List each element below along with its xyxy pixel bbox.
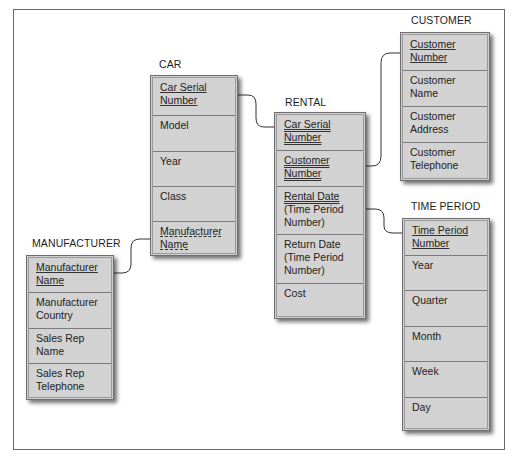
attribute-quarter[interactable]: Quarter: [405, 291, 487, 327]
attribute-customer-name[interactable]: Customer Name: [403, 71, 487, 107]
entity-car-body: Car Serial Number Model Year Class Manuf…: [152, 77, 236, 254]
connector-rental-timeperiod: [366, 209, 403, 233]
entity-title-car: CAR: [159, 58, 181, 70]
entity-customer-body: Customer Number Customer Name Customer A…: [402, 34, 488, 179]
attribute-week[interactable]: Week: [405, 362, 487, 398]
entity-rental-body: Car Serial Number Customer Number Rental…: [276, 114, 364, 317]
connector-customer-rental: [366, 53, 401, 166]
entity-title-time-period: TIME PERIOD: [411, 200, 480, 212]
attribute-customer-number[interactable]: Customer Number: [403, 35, 487, 71]
attribute-class[interactable]: Class: [153, 187, 235, 222]
attribute-car-serial-number[interactable]: Car Serial Number: [153, 78, 235, 116]
entity-title-customer: CUSTOMER: [411, 14, 472, 26]
attribute-customer-address[interactable]: Customer Address: [403, 107, 487, 143]
attribute-return-date[interactable]: Return Date (Time Period Number): [277, 235, 363, 284]
entity-time-period[interactable]: Time Period Number Year Quarter Month We…: [402, 218, 490, 431]
attribute-cost[interactable]: Cost: [277, 284, 363, 316]
attribute-month[interactable]: Month: [405, 327, 487, 362]
entity-manufacturer[interactable]: Manufacturer Name Manufacturer Country S…: [26, 255, 114, 400]
attribute-year[interactable]: Year: [153, 152, 235, 187]
connector-car-rental: [237, 95, 275, 127]
attribute-manufacturer-name-fk[interactable]: Manufacturer Name: [153, 222, 235, 254]
attribute-rental-car-serial-number[interactable]: Car Serial Number: [277, 115, 363, 151]
entity-manufacturer-body: Manufacturer Name Manufacturer Country S…: [28, 257, 112, 398]
attribute-manufacturer-country[interactable]: Manufacturer Country: [29, 293, 111, 329]
entity-customer[interactable]: Customer Number Customer Name Customer A…: [400, 32, 490, 181]
entity-rental[interactable]: Car Serial Number Customer Number Rental…: [274, 112, 366, 319]
attribute-time-period-number[interactable]: Time Period Number: [405, 221, 487, 256]
attribute-rental-date[interactable]: Rental Date (Time Period Number): [277, 187, 363, 235]
entity-title-manufacturer: MANUFACTURER: [32, 237, 121, 249]
attribute-manufacturer-name[interactable]: Manufacturer Name: [29, 258, 111, 293]
attribute-rental-customer-number[interactable]: Customer Number: [277, 151, 363, 187]
attribute-model[interactable]: Model: [153, 116, 235, 152]
attribute-day[interactable]: Day: [405, 398, 487, 428]
attribute-customer-telephone[interactable]: Customer Telephone: [403, 143, 487, 179]
entity-time-period-body: Time Period Number Year Quarter Month We…: [404, 220, 488, 429]
attribute-tp-year[interactable]: Year: [405, 256, 487, 291]
attribute-sales-rep-telephone[interactable]: Sales Rep Telephone: [29, 364, 111, 397]
attribute-sales-rep-name[interactable]: Sales Rep Name: [29, 329, 111, 364]
entity-car[interactable]: Car Serial Number Model Year Class Manuf…: [150, 75, 238, 256]
entity-title-rental: RENTAL: [285, 96, 326, 108]
